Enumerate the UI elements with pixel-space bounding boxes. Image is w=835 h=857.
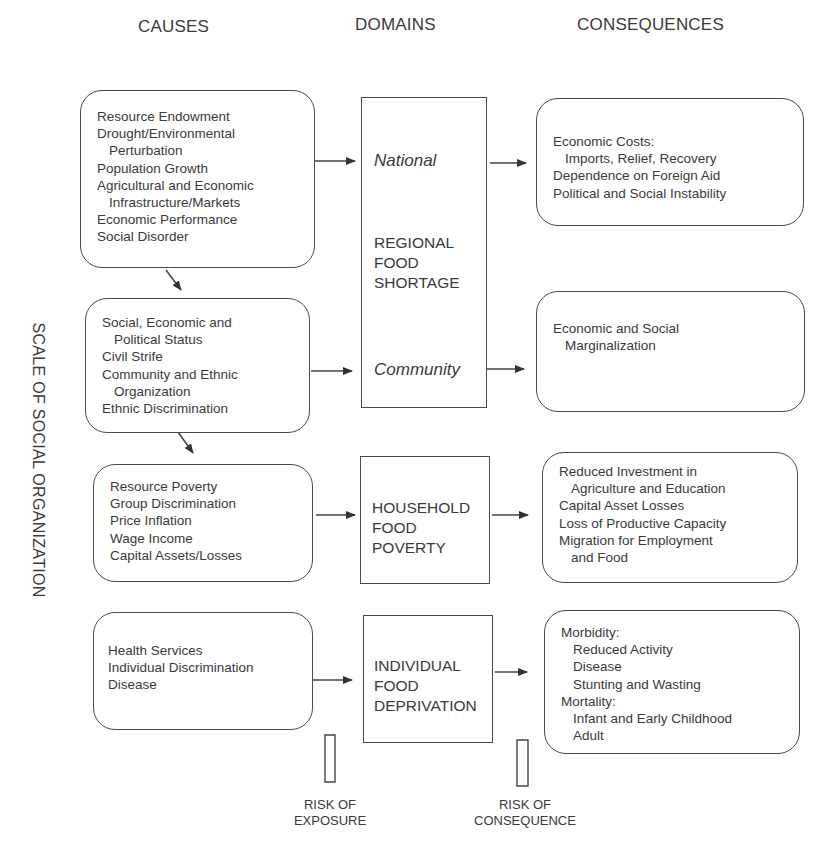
- domain-title-line: REGIONAL: [374, 233, 460, 253]
- consequence-item: Morbidity:: [561, 624, 732, 641]
- consequence-item: Economic and Social: [553, 320, 679, 337]
- cause-item: Community and Ethnic: [102, 366, 238, 383]
- domain-title-line: INDIVIDUAL: [374, 656, 477, 676]
- risk-of-consequence-marker: [517, 740, 528, 786]
- cause-item: Ethnic Discrimination: [102, 400, 238, 417]
- risk-label-line: RISK OF: [290, 797, 370, 813]
- cause-item: Political Status: [102, 331, 238, 348]
- domain-national-label: National: [374, 151, 436, 171]
- consequence-item: Imports, Relief, Recovery: [553, 150, 726, 167]
- cause-item: Social, Economic and: [102, 314, 238, 331]
- consequences-list-community: Economic and Social Marginalization: [553, 320, 679, 354]
- cause-item: Agricultural and Economic: [97, 177, 254, 194]
- cause-item: Price Inflation: [110, 512, 242, 529]
- consequence-item: Disease: [561, 658, 732, 675]
- consequence-item: Mortality:: [561, 693, 732, 710]
- causes-list-individual: Health Services Individual Discriminatio…: [108, 642, 254, 694]
- risk-label-line: CONSEQUENCE: [470, 813, 580, 829]
- consequence-item: Reduced Investment in: [559, 463, 726, 480]
- consequences-list-household: Reduced Investment in Agriculture and Ed…: [559, 463, 726, 566]
- consequence-item: Infant and Early Childhood: [561, 710, 732, 727]
- domain-household-title: HOUSEHOLD FOOD POVERTY: [372, 498, 470, 558]
- domain-individual-title: INDIVIDUAL FOOD DEPRIVATION: [374, 656, 477, 716]
- risk-label-line: EXPOSURE: [290, 813, 370, 829]
- domain-title-line: FOOD: [374, 253, 460, 273]
- cause-item: Wage Income: [110, 530, 242, 547]
- cause-item: Social Disorder: [97, 228, 254, 245]
- cause-item: Perturbation: [97, 142, 254, 159]
- cause-item: Economic Performance: [97, 211, 254, 228]
- cause-item: Health Services: [108, 642, 254, 659]
- risk-label-line: RISK OF: [470, 797, 580, 813]
- cause-item: Organization: [102, 383, 238, 400]
- cause-item: Drought/Environmental: [97, 125, 254, 142]
- domain-title-line: FOOD: [372, 518, 470, 538]
- cause-item: Resource Poverty: [110, 478, 242, 495]
- risk-of-exposure-marker: [325, 735, 335, 782]
- domain-title-line: SHORTAGE: [374, 273, 460, 293]
- causes-list-household: Resource Poverty Group Discrimination Pr…: [110, 478, 242, 564]
- consequence-item: Capital Asset Losses: [559, 497, 726, 514]
- consequence-item: Dependence on Foreign Aid: [553, 167, 726, 184]
- causes-list-national: Resource Endowment Drought/Environmental…: [97, 108, 254, 246]
- cause-item: Resource Endowment: [97, 108, 254, 125]
- cause-item: Disease: [108, 676, 254, 693]
- domain-title-line: HOUSEHOLD: [372, 498, 470, 518]
- consequences-list-individual: Morbidity: Reduced Activity Disease Stun…: [561, 624, 732, 744]
- consequence-item: Agriculture and Education: [559, 480, 726, 497]
- domain-title-line: DEPRIVATION: [374, 696, 477, 716]
- consequence-item: Political and Social Instability: [553, 185, 726, 202]
- consequence-item: Economic Costs:: [553, 133, 726, 150]
- consequence-item: Stunting and Wasting: [561, 676, 732, 693]
- consequence-item: Adult: [561, 727, 732, 744]
- cause-item: Capital Assets/Losses: [110, 547, 242, 564]
- risk-of-exposure-label: RISK OF EXPOSURE: [290, 797, 370, 829]
- cause-item: Group Discrimination: [110, 495, 242, 512]
- cause-item: Population Growth: [97, 160, 254, 177]
- risk-of-consequence-label: RISK OF CONSEQUENCE: [470, 797, 580, 829]
- causes-list-community: Social, Economic and Political Status Ci…: [102, 314, 238, 417]
- consequence-item: Marginalization: [553, 337, 679, 354]
- domain-regional-title: REGIONAL FOOD SHORTAGE: [374, 233, 460, 293]
- domain-title-line: FOOD: [374, 676, 477, 696]
- cause-item: Individual Discrimination: [108, 659, 254, 676]
- cause-item: Infrastructure/Markets: [97, 194, 254, 211]
- consequences-list-national: Economic Costs: Imports, Relief, Recover…: [553, 133, 726, 202]
- consequence-item: Reduced Activity: [561, 641, 732, 658]
- consequence-item: Migration for Employment: [559, 532, 726, 549]
- consequence-item: Loss of Productive Capacity: [559, 515, 726, 532]
- domain-title-line: POVERTY: [372, 538, 470, 558]
- domain-community-label: Community: [374, 360, 460, 380]
- cause-item: Civil Strife: [102, 348, 238, 365]
- consequence-item: and Food: [559, 549, 726, 566]
